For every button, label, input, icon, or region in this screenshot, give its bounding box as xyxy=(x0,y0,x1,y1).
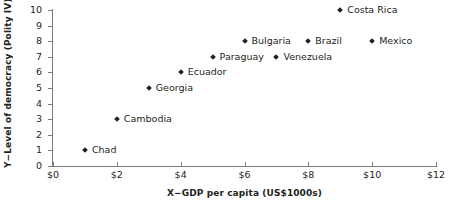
data-point[interactable]: Georgia xyxy=(147,83,193,93)
data-point-label: Brazil xyxy=(315,36,342,46)
x-tick-mark xyxy=(117,162,118,166)
y-tick-mark xyxy=(48,135,52,136)
x-tick-mark xyxy=(53,162,54,166)
y-tick-label: 4 xyxy=(14,99,42,109)
y-tick-mark xyxy=(48,88,52,89)
diamond-marker-icon xyxy=(369,38,375,44)
diamond-marker-icon xyxy=(274,54,280,60)
data-point-label: Venezuela xyxy=(283,52,332,62)
data-point[interactable]: Chad xyxy=(83,145,117,155)
y-tick-label: 3 xyxy=(14,114,42,124)
y-axis-line xyxy=(52,9,53,167)
data-point[interactable]: Costa Rica xyxy=(338,5,397,15)
y-tick-mark xyxy=(48,150,52,151)
x-axis-line xyxy=(53,166,437,167)
data-point[interactable]: Venezuela xyxy=(274,52,332,62)
y-tick-mark xyxy=(48,72,52,73)
y-tick-label: 0 xyxy=(14,161,42,171)
x-tick-mark xyxy=(308,162,309,166)
diamond-marker-icon xyxy=(305,38,311,44)
data-point-label: Bulgaria xyxy=(252,36,291,46)
diamond-marker-icon xyxy=(210,54,216,60)
x-tick-label: $6 xyxy=(238,170,250,180)
diamond-marker-icon xyxy=(242,38,248,44)
x-axis-title: X−GDP per capita (US$1000s) xyxy=(53,188,436,198)
data-point-label: Mexico xyxy=(379,36,412,46)
data-point[interactable]: Ecuador xyxy=(179,67,227,77)
x-tick-label: $10 xyxy=(363,170,381,180)
x-tick-mark xyxy=(372,162,373,166)
y-tick-mark xyxy=(48,119,52,120)
diamond-marker-icon xyxy=(114,116,120,122)
y-tick-label: 5 xyxy=(14,83,42,93)
data-point-label: Cambodia xyxy=(124,114,172,124)
data-point[interactable]: Paraguay xyxy=(211,52,264,62)
x-tick-mark xyxy=(181,162,182,166)
diamond-marker-icon xyxy=(146,85,152,91)
x-tick-mark xyxy=(245,162,246,166)
data-point[interactable]: Cambodia xyxy=(115,114,172,124)
y-tick-mark xyxy=(48,10,52,11)
y-tick-mark xyxy=(48,26,52,27)
x-tick-mark xyxy=(436,162,437,166)
y-tick-mark xyxy=(48,166,52,167)
y-tick-mark xyxy=(48,104,52,105)
data-point[interactable]: Mexico xyxy=(370,36,412,46)
scatter-chart: Y−Level of democracy (Polity IV) 0123456… xyxy=(0,0,458,211)
x-tick-label: $0 xyxy=(47,170,59,180)
diamond-marker-icon xyxy=(178,70,184,76)
y-tick-label: 9 xyxy=(14,21,42,31)
diamond-marker-icon xyxy=(337,7,343,13)
diamond-marker-icon xyxy=(82,148,88,154)
y-tick-label: 8 xyxy=(14,36,42,46)
data-point-label: Paraguay xyxy=(220,52,264,62)
y-tick-label: 7 xyxy=(14,52,42,62)
x-tick-label: $2 xyxy=(111,170,123,180)
x-tick-label: $12 xyxy=(427,170,445,180)
y-tick-mark xyxy=(48,41,52,42)
x-tick-label: $8 xyxy=(302,170,314,180)
y-tick-label: 6 xyxy=(14,67,42,77)
y-tick-mark xyxy=(48,57,52,58)
y-tick-label: 1 xyxy=(14,145,42,155)
data-point-label: Georgia xyxy=(156,83,193,93)
data-point[interactable]: Bulgaria xyxy=(243,36,291,46)
data-point-label: Costa Rica xyxy=(347,5,397,15)
data-point-label: Ecuador xyxy=(188,67,227,77)
x-tick-label: $4 xyxy=(175,170,187,180)
y-tick-label: 2 xyxy=(14,130,42,140)
data-point-label: Chad xyxy=(92,145,117,155)
y-tick-label: 10 xyxy=(14,5,42,15)
data-point[interactable]: Brazil xyxy=(306,36,342,46)
